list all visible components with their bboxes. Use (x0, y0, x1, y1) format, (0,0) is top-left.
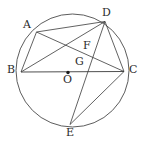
segment-BC (21, 72, 124, 73)
point-label-F: F (83, 40, 91, 51)
segment-AD (37, 22, 106, 33)
point-label-D: D (102, 7, 111, 18)
point-label-E: E (66, 127, 74, 138)
segment-AB (21, 32, 37, 72)
segment-DE (70, 22, 105, 125)
point-label-A: A (23, 19, 31, 30)
point-label-C: C (129, 64, 137, 75)
segment-EC (70, 72, 124, 125)
main-circle (16, 14, 129, 127)
center-point-label-O: O (63, 74, 72, 85)
point-label-B: B (7, 64, 15, 75)
geometry-figure: A B C D E F G O (0, 0, 147, 146)
point-label-G: G (75, 56, 84, 67)
